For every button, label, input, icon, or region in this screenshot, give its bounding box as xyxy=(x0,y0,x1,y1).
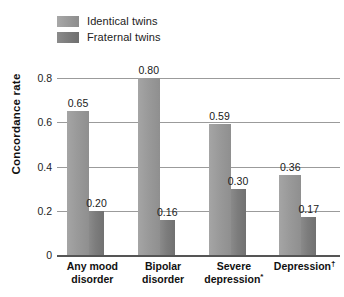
x-category-label-3: Depression† xyxy=(261,260,344,273)
legend-item-fraternal-twins: Fraternal twins xyxy=(57,30,257,44)
bar-value-label-1-1: 0.16 xyxy=(148,207,187,217)
y-axis-ticks: 0.80.60.40.20 xyxy=(18,0,52,297)
y-tick-label-0.6: 0.6 xyxy=(26,117,52,127)
bar-value-label-0-3: 0.36 xyxy=(267,162,313,172)
chart-legend: Identical twins Fraternal twins xyxy=(57,14,257,46)
bar-1-1 xyxy=(160,220,175,255)
legend-label-identical-twins: Identical twins xyxy=(87,16,158,27)
y-tick-label-0.2: 0.2 xyxy=(26,206,52,216)
y-tick-label-0.4: 0.4 xyxy=(26,162,52,172)
bar-value-label-0-1: 0.80 xyxy=(126,65,172,75)
x-axis-line xyxy=(57,255,340,257)
plot-area: 0.650.200.800.160.590.300.360.17 xyxy=(57,78,340,255)
gridline-0.6 xyxy=(57,122,340,123)
legend-swatch-identical-twins xyxy=(57,16,79,27)
bar-value-label-0-0: 0.65 xyxy=(55,98,101,108)
legend-item-identical-twins: Identical twins xyxy=(57,14,257,28)
bar-value-label-1-0: 0.20 xyxy=(77,198,116,208)
y-tick-label-0.8: 0.8 xyxy=(26,73,52,83)
bar-1-0 xyxy=(89,211,104,255)
bar-0-2 xyxy=(209,124,231,255)
bar-value-label-0-2: 0.59 xyxy=(197,111,243,121)
bar-0-0 xyxy=(67,111,89,255)
legend-swatch-fraternal-twins xyxy=(57,32,79,43)
bar-value-label-1-3: 0.17 xyxy=(289,204,328,214)
legend-label-fraternal-twins: Fraternal twins xyxy=(87,32,161,43)
bar-1-3 xyxy=(301,217,316,255)
bar-value-label-1-2: 0.30 xyxy=(219,176,258,186)
bar-1-2 xyxy=(231,189,246,255)
bar-0-3 xyxy=(279,175,301,255)
bar-0-1 xyxy=(138,78,160,255)
y-tick-label-0: 0 xyxy=(26,250,52,260)
gridline-0.8 xyxy=(57,78,340,79)
